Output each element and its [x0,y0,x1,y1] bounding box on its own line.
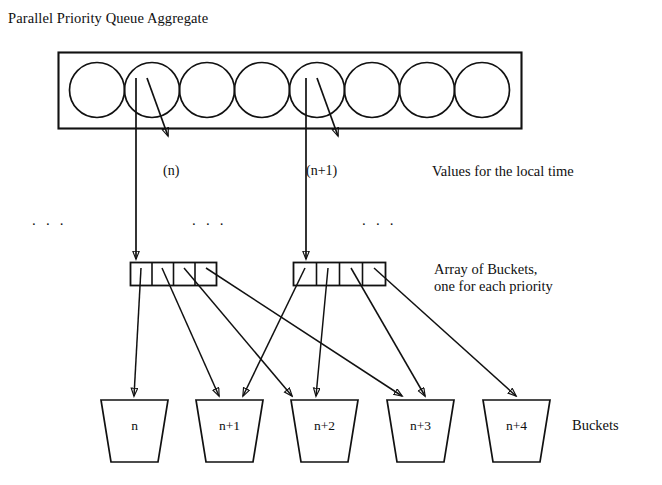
value-pointer-n [147,78,168,136]
figure-title: Parallel Priority Queue Aggregate [8,10,208,27]
ellipsis-right: . . . [362,212,397,230]
queue-circle-3 [235,63,290,118]
local-time-label-n-plus-1: (n+1) [306,163,337,180]
buckets-caption: Buckets [572,417,619,434]
queue-circle-5 [345,63,400,118]
bucket-label-n: n [101,418,168,434]
link-a2c1-to-bucket-n-plus-1 [243,268,305,396]
link-a1c1-to-bucket-n [134,268,141,396]
ellipsis-middle: . . . [192,212,227,230]
value-pointer-n-plus-1 [317,78,338,136]
queue-circle-6 [400,63,455,118]
ellipsis-left: . . . [32,212,67,230]
link-a1c4-to-bucket-n-plus-3 [206,268,402,396]
link-a2c2-to-bucket-n-plus-2 [316,268,328,396]
link-a2c3-to-bucket-n-plus-3 [351,268,425,396]
queue-circle-2 [180,63,235,118]
link-a1c2-to-bucket-n-plus-1 [162,268,219,396]
array-caption-line-1: Array of Buckets, [434,261,537,278]
bucket-label-n-plus-2: n+2 [291,418,358,434]
local-time-caption: Values for the local time [432,163,574,180]
queue-circle-4 [290,63,345,118]
bucket-array-n-plus-1 [294,263,386,286]
diagram-canvas: Parallel Priority Queue Aggregate (n) (n… [0,0,662,485]
queue-circle-0 [70,63,125,118]
queue-circle-7 [455,63,510,118]
local-time-label-n: (n) [163,163,179,180]
bucket-label-n-plus-4: n+4 [483,418,550,434]
array-caption-line-2: one for each priority [434,278,553,295]
bucket-label-n-plus-1: n+1 [196,418,263,434]
diagram-vector-layer [0,0,662,485]
bucket-array-n [131,263,217,286]
bucket-label-n-plus-3: n+3 [387,418,454,434]
link-a1c3-to-bucket-n-plus-2 [184,268,292,396]
